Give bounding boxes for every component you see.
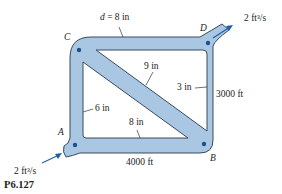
right-pipe-diameter-label: 3 in [177,83,192,93]
diagonal-pipe-diameter-label: 9 in [144,62,159,72]
node-dot-c [77,48,81,52]
inlet-arrow-icon [42,153,62,163]
leader-top [119,27,123,37]
diameter-value: = 8 in [105,12,130,22]
right-pipe-length-label: 3000 ft [216,90,243,100]
node-dot-a [73,143,77,147]
bottom-pipe-length-label: 4000 ft [126,158,153,168]
node-label-a: A [58,128,64,138]
outlet-flow-label: 2 ft³/s [244,14,266,24]
left-pipe-diameter-label: 6 in [95,104,110,114]
top-pipe-diameter-label: d = 8 in [100,13,129,23]
node-label-b: B [210,154,216,164]
bottom-pipe-diameter-label: 8 in [129,118,144,128]
figure-caption: P6.127 [4,179,34,190]
inlet-flow-label: 2 ft³/s [14,167,36,177]
node-label-c: C [64,33,70,43]
node-dot-b [202,142,206,146]
node-label-d: D [200,24,207,34]
node-dot-d [206,41,210,45]
